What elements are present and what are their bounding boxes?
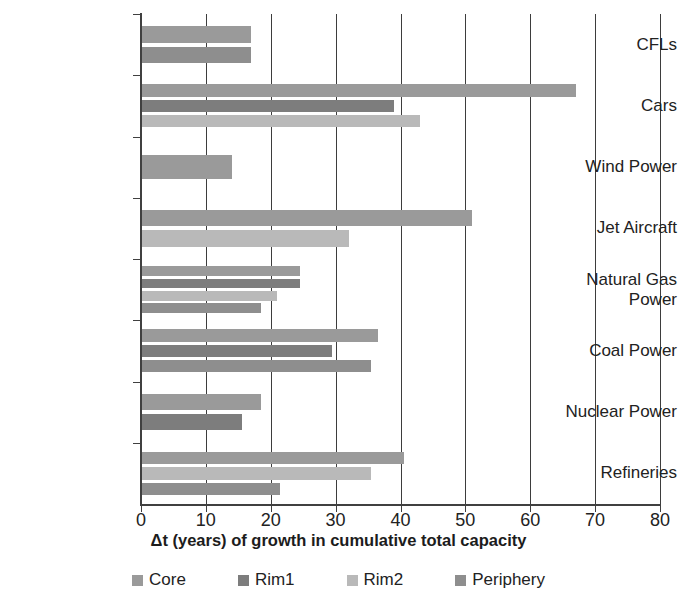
x-tick-label: 10 bbox=[184, 510, 228, 531]
legend-swatch-icon bbox=[347, 575, 358, 586]
x-tick-label: 0 bbox=[119, 510, 163, 531]
bar-rim2 bbox=[141, 115, 420, 127]
legend-label: Periphery bbox=[472, 570, 545, 590]
bar-rim1 bbox=[141, 345, 332, 357]
x-axis-title: Δt (years) of growth in cumulative total… bbox=[0, 531, 677, 550]
x-tick-label: 80 bbox=[638, 510, 682, 531]
bar-periphery bbox=[141, 47, 251, 63]
legend-swatch-icon bbox=[238, 575, 249, 586]
bar-rim1 bbox=[141, 414, 242, 430]
y-tick-mark bbox=[133, 443, 141, 444]
bar-rim1 bbox=[141, 279, 300, 289]
plot-area bbox=[141, 14, 660, 504]
legend-item-rim1: Rim1 bbox=[238, 570, 295, 590]
x-tick-label: 70 bbox=[573, 510, 617, 531]
bar-periphery bbox=[141, 303, 261, 313]
category-label: CFLs bbox=[545, 35, 677, 55]
y-tick-mark bbox=[133, 259, 141, 260]
bar-periphery bbox=[141, 360, 371, 372]
x-tick-label: 60 bbox=[508, 510, 552, 531]
y-tick-mark bbox=[133, 14, 141, 15]
category-label: Cars bbox=[545, 96, 677, 116]
category-label: Refineries bbox=[545, 463, 677, 483]
y-tick-mark bbox=[133, 382, 141, 383]
gridline bbox=[660, 14, 661, 504]
legend-label: Rim2 bbox=[364, 570, 404, 590]
category-label: Natural Gas Power bbox=[545, 270, 677, 310]
legend-item-core: Core bbox=[132, 570, 186, 590]
bar-rim2 bbox=[141, 467, 371, 479]
legend-label: Rim1 bbox=[255, 570, 295, 590]
x-tick-label: 40 bbox=[379, 510, 423, 531]
bar-rim2 bbox=[141, 230, 349, 246]
bar-rim2 bbox=[141, 291, 277, 301]
bar-core bbox=[141, 452, 404, 464]
legend-item-periphery: Periphery bbox=[455, 570, 545, 590]
legend-label: Core bbox=[149, 570, 186, 590]
x-tick-label: 30 bbox=[314, 510, 358, 531]
y-tick-mark bbox=[133, 198, 141, 199]
y-tick-mark bbox=[133, 75, 141, 76]
legend-swatch-icon bbox=[455, 575, 466, 586]
bar-core bbox=[141, 329, 378, 341]
x-tick-label: 50 bbox=[443, 510, 487, 531]
legend-swatch-icon bbox=[132, 575, 143, 586]
category-label: Coal Power bbox=[545, 341, 677, 361]
y-tick-mark bbox=[133, 320, 141, 321]
bar-core bbox=[141, 84, 576, 96]
category-label: Wind Power bbox=[545, 157, 677, 177]
chart-legend: CoreRim1Rim2Periphery bbox=[0, 570, 677, 590]
x-tick-label: 20 bbox=[249, 510, 293, 531]
gridline bbox=[595, 14, 596, 504]
bar-core bbox=[141, 155, 232, 180]
y-tick-mark bbox=[133, 137, 141, 138]
bar-core bbox=[141, 210, 472, 226]
bar-periphery bbox=[141, 483, 280, 495]
category-label: Nuclear Power bbox=[545, 402, 677, 422]
legend-item-rim2: Rim2 bbox=[347, 570, 404, 590]
bar-core bbox=[141, 26, 251, 42]
bar-core bbox=[141, 394, 261, 410]
bar-rim1 bbox=[141, 100, 394, 112]
bar-core bbox=[141, 266, 300, 276]
category-label: Jet Aircraft bbox=[545, 218, 677, 238]
